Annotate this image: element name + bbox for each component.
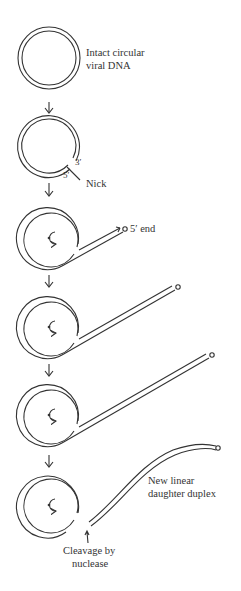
down-arrow-5 [45, 455, 53, 467]
down-arrow-1 [45, 102, 53, 113]
label-intact-line2: viral DNA [86, 60, 131, 71]
rolling-circle-stage-4 [16, 285, 180, 359]
intact-circular-dna [18, 27, 80, 89]
nicked-circular-dna [18, 116, 80, 180]
label-duplex-line1: New linear [148, 475, 194, 486]
label-5-prime-end: 5′ end [130, 223, 155, 234]
label-3-prime: 3′ [75, 157, 81, 168]
rolling-circle-stage-3 [16, 208, 127, 270]
down-arrow-3 [45, 275, 53, 287]
label-nick: Nick [86, 178, 106, 189]
rolling-circle-stage-5 [16, 353, 214, 447]
label-duplex-line2: daughter duplex [148, 488, 216, 499]
label-5-prime: 5′ [63, 170, 69, 181]
rolling-circle-diagram [0, 0, 241, 591]
down-arrow-4 [45, 364, 53, 376]
label-cleavage-line2: nuclease [72, 558, 108, 569]
down-arrow-2 [45, 183, 53, 196]
label-cleavage-line1: Cleavage by [63, 545, 115, 556]
label-intact-line1: Intact circular [86, 47, 145, 58]
